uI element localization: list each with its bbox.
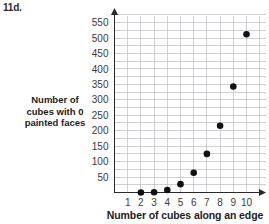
x-tick-label: 9 (231, 197, 237, 208)
data-point (138, 189, 145, 196)
x-axis-arrowhead (259, 189, 266, 196)
data-point (177, 181, 184, 188)
y-tick-label: 50 (97, 172, 109, 183)
y-axis-arrowhead (111, 8, 118, 15)
data-point (230, 83, 237, 90)
y-tick-label: 350 (92, 79, 109, 90)
y-tick-label: 550 (92, 17, 109, 28)
figure-container: 11d. Number of cubes with 0 painted face… (0, 0, 269, 224)
y-tick-label: 300 (92, 94, 109, 105)
x-tick-label: 8 (217, 197, 223, 208)
scatter-plot: 50100150200250300350400450500550 1234567… (0, 0, 269, 224)
y-tick-label: 150 (92, 141, 109, 152)
data-point (217, 122, 224, 129)
x-axis-title: Number of cubes along an edge (101, 209, 269, 221)
y-tick-label: 500 (92, 33, 109, 44)
y-tick-label: 100 (92, 156, 109, 167)
data-point (204, 151, 211, 158)
data-point (151, 189, 158, 196)
y-tick-label: 250 (92, 110, 109, 121)
x-tick-label: 6 (191, 197, 197, 208)
axes (111, 8, 266, 196)
y-tick-label: 200 (92, 125, 109, 136)
data-point (164, 187, 171, 194)
x-tick-label: 1 (125, 197, 131, 208)
y-axis-tick-labels: 50100150200250300350400450500550 (92, 17, 109, 183)
y-tick-label: 400 (92, 64, 109, 75)
x-tick-label: 10 (241, 197, 253, 208)
grid-lines (115, 15, 267, 193)
x-tick-label: 3 (151, 197, 157, 208)
data-point (243, 31, 250, 38)
x-axis-tick-labels: 12345678910 (125, 197, 253, 208)
x-tick-label: 7 (204, 197, 210, 208)
x-tick-label: 4 (165, 197, 171, 208)
x-tick-label: 5 (178, 197, 184, 208)
data-point (190, 169, 197, 176)
x-tick-label: 2 (138, 197, 144, 208)
y-tick-label: 450 (92, 48, 109, 59)
